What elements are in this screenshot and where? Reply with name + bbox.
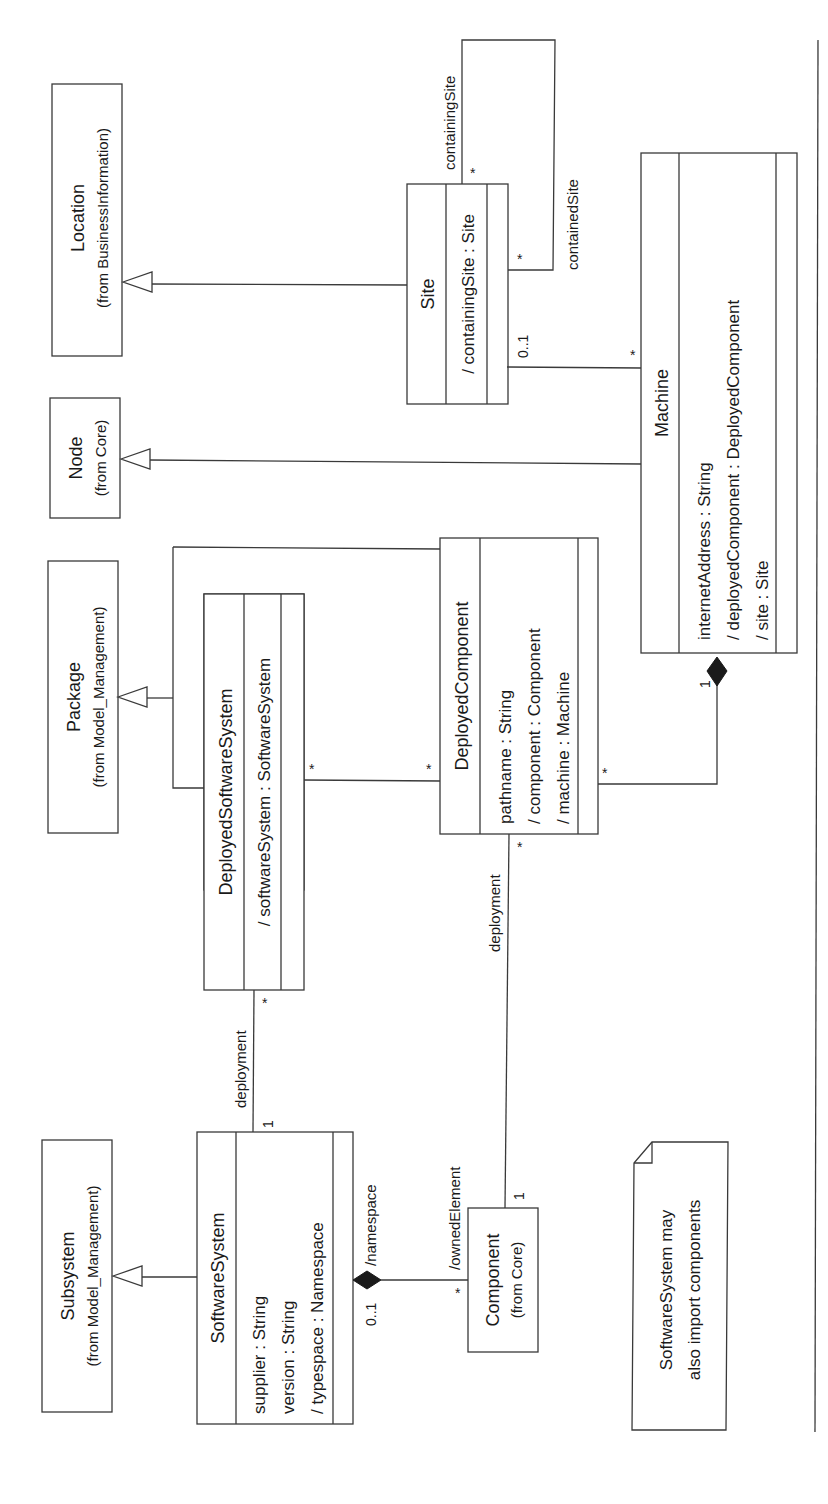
multiplicity: * [455,1285,461,1301]
multiplicity: * [602,765,608,781]
class-deployed-software-system: DeployedSoftwareSystem / softwareSystem … [204,594,304,990]
class-attribute: / containingSite : Site [459,214,478,374]
role-label: deployment [486,874,503,952]
multiplicity: 0..1 [515,334,531,358]
class-machine: Machine internetAddress : String / deplo… [641,153,797,653]
association-dss-deployed-component: * * [304,761,440,781]
class-origin: (from Model_Management) [90,607,107,788]
multiplicity: * [262,995,268,1011]
class-site: Site / containingSite : Site [407,184,508,404]
class-component: Component (from Core) [468,1208,538,1352]
class-name: Subsystem [58,1231,78,1320]
class-name: Component [483,1233,503,1326]
association-site-machine: 0..1 * [507,334,641,368]
multiplicity: 0..1 [363,1302,379,1326]
class-name: DeployedComponent [452,601,472,770]
association-machine-deployed-component: 1 * [598,657,727,784]
class-origin: (from Core) [92,420,109,497]
multiplicity: 1 [697,680,713,688]
multiplicity: * [309,761,315,777]
generalization-machine-node [121,449,641,469]
class-origin: (from Core) [508,1242,525,1319]
generalization-site-location [123,272,407,292]
class-name: Machine [652,369,672,437]
class-location: Location (from BusinessInformation) [52,84,122,356]
class-attribute: supplier : String [250,1296,269,1414]
multiplicity: * [517,251,523,267]
association-ss-dss: deployment 1 * [232,990,276,1132]
association-component-deployed-component: deployment 1 * [486,834,527,1208]
note-line: also import components [685,1200,704,1380]
class-attribute: pathname : String [496,690,515,824]
role-label: deployment [232,1030,249,1108]
class-attribute: / typespace : Namespace [308,1222,327,1414]
multiplicity: * [517,839,523,855]
class-name: Site [418,278,438,309]
class-name: Package [64,662,84,732]
role-label: /namespace [362,1184,379,1266]
role-label: containingSite [441,76,458,170]
class-origin: (from Model_Management) [84,1186,101,1367]
class-deployed-component: DeployedComponent pathname : String / co… [440,538,598,834]
multiplicity: * [470,165,476,181]
class-attribute: / machine : Machine [554,672,573,824]
class-attribute: / softwareSystem : SoftwareSystem [255,658,274,926]
class-attribute: / site : Site [753,561,772,640]
class-name: Node [66,436,86,479]
multiplicity: * [426,761,432,777]
class-attribute: internetAddress : String [695,462,714,640]
role-label: /ownedElement [446,1166,463,1270]
class-node: Node (from Core) [50,398,120,518]
class-subsystem: Subsystem (from Model_Management) [42,1140,112,1412]
page-edge-line [815,40,818,1432]
class-software-system: SoftwareSystem supplier : String version… [197,1132,353,1424]
generalization-ss-subsystem [113,1266,197,1286]
class-package: Package (from Model_Management) [48,561,118,833]
class-attribute: version : String [279,1301,298,1414]
class-attribute: / component : Component [525,628,544,824]
multiplicity: 1 [511,1192,527,1200]
multiplicity: 1 [260,1120,276,1128]
class-origin: (from BusinessInformation) [94,128,111,308]
note-line: SoftwareSystem may [657,1209,676,1370]
note: SoftwareSystem may also import component… [632,1142,728,1430]
class-name: SoftwareSystem [208,1212,228,1343]
class-name: DeployedSoftwareSystem [216,688,236,895]
class-attribute: / deployedComponent : DeployedComponent [724,299,743,640]
role-label: containedSite [564,179,581,270]
multiplicity: * [630,347,636,363]
association-ss-component: /namespace 0..1 /ownedElement * [353,1166,468,1326]
uml-diagram: Location (from BusinessInformation) Node… [0,0,828,1504]
class-name: Location [68,184,88,252]
